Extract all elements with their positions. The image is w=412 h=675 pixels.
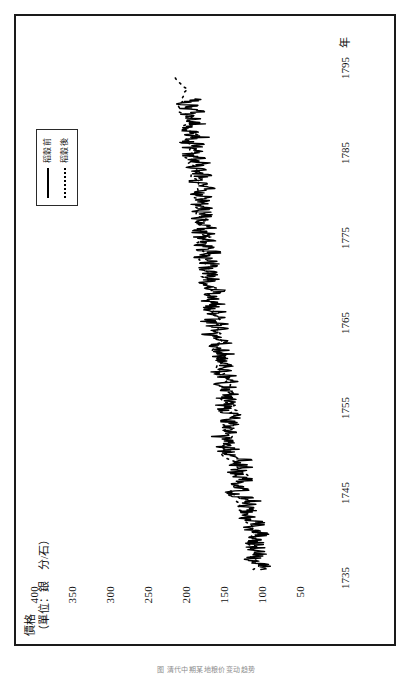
legend-label-0: 稻穀前 [44,138,52,164]
y-tick-label-150: 150 [219,586,230,632]
figure-frame: 價格 （單位：銀 分/石） 400 350 300 250 200 150 10… [14,14,396,646]
legend-swatch-dashed-icon [64,168,66,198]
x-tick-label-1785: 1785 [340,142,351,164]
y-tick-label-350: 350 [67,586,78,632]
y-tick-label-200: 200 [181,586,192,632]
rotated-chart-container: 價格 （單位：銀 分/石） 400 350 300 250 200 150 10… [24,24,386,636]
series-line-dashed [175,75,259,569]
legend-item-1: 稻穀後 [59,138,71,199]
legend-item-0: 稻穀前 [42,138,54,199]
series-plot [34,58,334,578]
y-tick-label-250: 250 [143,586,154,632]
series-line-solid [177,99,271,570]
x-tick-label-1735: 1735 [340,567,351,589]
legend-label-1: 稻穀後 [61,138,69,164]
x-tick-label-1795: 1795 [340,57,351,79]
x-tick-label-1755: 1755 [340,397,351,419]
figure-caption: 图 清代中期某地粮价变动趋势 [0,664,412,674]
x-tick-label-1765: 1765 [340,312,351,334]
legend: 稻穀前 稻穀後 [36,130,78,207]
figure-page: 價格 （單位：銀 分/石） 400 350 300 250 200 150 10… [0,0,412,675]
x-axis-title: 年 [340,37,351,48]
x-tick-label-1745: 1745 [340,482,351,504]
y-tick-label-100: 100 [257,586,268,632]
y-tick-label-400: 400 [29,586,40,632]
y-tick-label-300: 300 [105,586,116,632]
x-tick-label-1775: 1775 [340,227,351,249]
plot-area [34,58,334,578]
y-tick-label-50: 50 [295,586,306,632]
legend-swatch-solid-icon [47,168,49,198]
